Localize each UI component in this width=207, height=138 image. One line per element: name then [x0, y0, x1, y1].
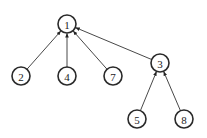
nodes-group: 1247358	[12, 15, 193, 128]
node-5: 5	[128, 110, 146, 128]
edge-8-to-3	[164, 72, 181, 111]
node-label: 3	[157, 58, 163, 70]
node-label: 5	[134, 114, 140, 126]
node-label: 1	[64, 19, 70, 31]
node-4: 4	[58, 67, 76, 85]
edge-7-to-1	[73, 31, 107, 69]
edge-5-to-3	[140, 72, 156, 111]
node-7: 7	[104, 67, 122, 85]
node-3: 3	[151, 54, 169, 72]
tree-diagram: 1247358	[0, 0, 207, 138]
diagram-svg: 1247358	[0, 0, 207, 138]
node-label: 4	[64, 71, 70, 83]
edge-2-to-1	[27, 31, 61, 69]
node-label: 2	[18, 71, 24, 83]
node-1: 1	[58, 15, 76, 33]
node-8: 8	[175, 110, 193, 128]
edge-3-to-1	[76, 28, 152, 60]
node-2: 2	[12, 67, 30, 85]
node-label: 7	[110, 71, 116, 83]
node-label: 8	[181, 114, 187, 126]
